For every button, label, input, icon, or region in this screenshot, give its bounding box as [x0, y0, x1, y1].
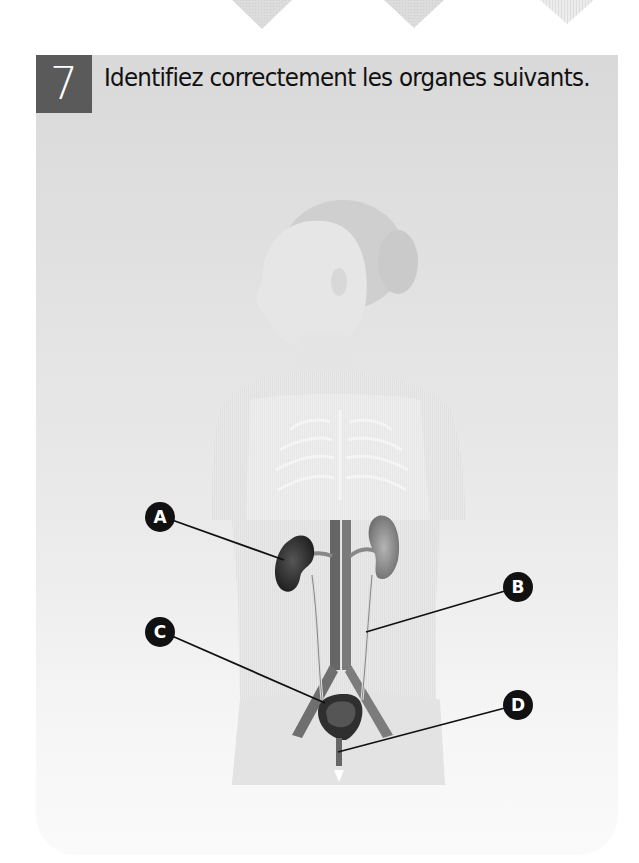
exercise-instruction: Identifiez correctement les organes suiv… [104, 63, 590, 92]
triangle-2 [384, 0, 444, 28]
label-marker-a[interactable]: A [145, 502, 175, 532]
label-letter-a: A [153, 507, 167, 527]
label-marker-d[interactable]: D [503, 690, 533, 720]
label-letter-b: B [512, 577, 525, 597]
triangle-1 [232, 0, 292, 29]
exercise-number: 7 [36, 55, 92, 113]
label-letter-d: D [511, 695, 525, 715]
triangle-3 [540, 0, 594, 24]
label-marker-b[interactable]: B [503, 572, 533, 602]
label-marker-c[interactable]: C [145, 617, 175, 647]
exercise-panel: 7 Identifiez correctement les organes su… [36, 55, 618, 855]
decorative-triangles [0, 0, 639, 40]
label-letter-c: C [154, 622, 166, 642]
